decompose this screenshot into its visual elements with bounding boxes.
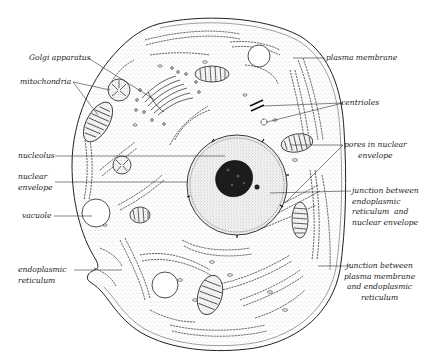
label-mitochondria: mitochondria <box>20 77 71 88</box>
label-junction-er-nuclear-envelope: junction between endoplasmic reticulum a… <box>352 186 419 228</box>
label-centrioles: centrioles <box>341 98 379 109</box>
label-nucleolus: nucleolus <box>18 151 55 162</box>
label-junction-plasma-membrane-er: junction between plasma membrane and end… <box>344 261 415 303</box>
cell-diagram: Golgi apparatus mitochondria nucleolus n… <box>0 0 431 363</box>
label-plasma-membrane: plasma membrane <box>326 53 397 64</box>
label-nuclear-envelope: nuclear envelope <box>18 172 53 193</box>
label-pores-in-nuclear-envelope: pores in nuclear envelope <box>344 140 407 161</box>
label-vacuole: vacuole <box>22 211 51 222</box>
label-endoplasmic-reticulum: endoplasmic reticulum <box>18 265 66 286</box>
label-golgi-apparatus: Golgi apparatus <box>29 53 91 64</box>
